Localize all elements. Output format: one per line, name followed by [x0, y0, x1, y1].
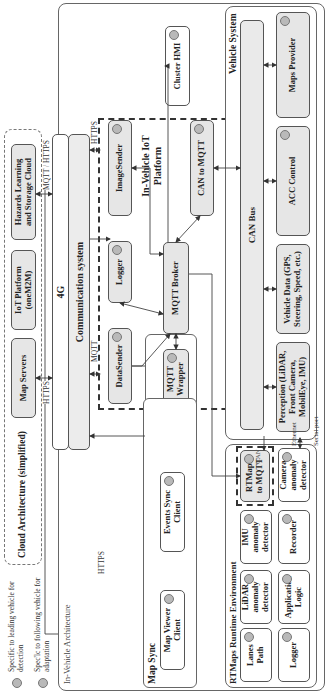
rtmaps-runtime-title: RTMaps Runtime Environment	[228, 561, 238, 684]
acc-control-label: ACC Control	[288, 157, 298, 206]
imagesender-box: ImageSender	[108, 120, 132, 216]
recorder-box: Recorder	[278, 510, 310, 564]
communication-system-box: Communication system	[68, 134, 90, 450]
rtmaps-logger-box: Logger	[278, 628, 310, 682]
following-vehicle-dot-icon	[280, 16, 290, 26]
can-label: CAN	[254, 449, 262, 464]
leading-vehicle-dot-icon	[112, 124, 122, 134]
leading-vehicle-dot-icon	[282, 452, 292, 462]
following-vehicle-dot-icon	[38, 678, 48, 688]
communication-system-label: Communication system	[74, 242, 85, 342]
ethernet-label: Ethernet	[290, 422, 298, 446]
imu-anomaly-detector-box: IMU anomaly detector	[240, 510, 272, 564]
map-viewer-client-label: Map Viewer Client	[163, 597, 183, 663]
vehicle-data-box: Vehicle Data (GPS, Steering, Speed, etc.…	[276, 244, 310, 334]
iot-platform-label: IoT Platform (oneM2M)	[14, 257, 34, 323]
imagesender-label: ImageSender	[115, 144, 125, 192]
lidar-anomaly-detector-box: LiDAR anomaly detector	[240, 570, 272, 624]
lanes-path-box: Lanes Path	[240, 628, 272, 682]
in-vehicle-architecture-title: In-Vehicle Architecture	[62, 604, 72, 684]
following-vehicle-dot-icon	[244, 632, 254, 642]
hazards-cloud-label: Hazards Learning and Storage Cloud	[14, 151, 34, 233]
mqtt-broker-label: MQTT Broker	[171, 261, 181, 315]
leading-vehicle-dot-icon	[282, 574, 292, 584]
acc-control-box: ACC Control	[276, 126, 310, 236]
leading-vehicle-dot-icon	[194, 124, 204, 134]
serial-port-label: Serial port	[312, 417, 320, 446]
following-vehicle-dot-icon	[164, 594, 174, 604]
logger-label: Logger	[115, 259, 125, 285]
vehicle-system-title: Vehicle System	[228, 13, 238, 74]
maps-provider-label: Maps Provider	[288, 38, 298, 92]
leading-vehicle-dot-icon	[282, 514, 292, 524]
legend-label: Specific to leading vehicle for detectio…	[8, 572, 25, 672]
leading-vehicle-dot-icon	[282, 632, 292, 642]
hazards-cloud-box: Hazards Learning and Storage Cloud	[11, 144, 36, 240]
can-bus-box: CAN Bus	[240, 20, 264, 430]
following-vehicle-dot-icon	[169, 30, 179, 40]
following-vehicle-dot-icon	[164, 476, 174, 486]
mqtt-https-label: MQTT / HTTPS	[42, 140, 51, 190]
datasender-label: DataSender	[115, 345, 125, 388]
map-viewer-client-box: Map Viewer Client	[160, 590, 185, 670]
perception-label: Perception (LiDAR, Front Camera, MobilEy…	[278, 349, 307, 425]
leading-vehicle-dot-icon	[112, 332, 122, 342]
leading-vehicle-dot-icon	[244, 574, 254, 584]
following-vehicle-dot-icon	[280, 130, 290, 140]
map-servers-label: Map Servers	[19, 355, 29, 402]
can-to-mqtt-label: CAN to MQTT	[197, 140, 207, 196]
rtmaps-logger-label: Logger	[289, 642, 299, 668]
camera-anomaly-detector-box: Camera anomaly detector	[278, 448, 310, 502]
leading-vehicle-dot-icon	[112, 245, 122, 255]
cloud-architecture-title: Cloud Architecture (simplified)	[17, 431, 27, 558]
4g-box: 4G	[52, 134, 69, 450]
leading-vehicle-dot-icon	[244, 454, 254, 464]
architecture-diagram: Specific to leading vehicle for detectio…	[0, 0, 328, 694]
mqtt-broker-box: MQTT Broker	[163, 242, 189, 334]
can-to-mqtt-box: CAN to MQTT	[190, 120, 214, 216]
vehicle-data-label: Vehicle Data (GPS, Steering, Speed, etc.…	[283, 251, 303, 327]
mqtt-wrapper-label: MQTT Wrapper	[166, 356, 186, 402]
events-sync-client-box: Events Sync Client	[160, 472, 185, 552]
mqtt-iot-label: MQTT	[90, 341, 99, 362]
map-servers-box: Map Servers	[11, 338, 36, 418]
4g-label: 4G	[55, 286, 66, 299]
legend-label: Spec'lc to following vehicle for adaptat…	[34, 572, 51, 672]
iot-platform-box: IoT Platform (oneM2M)	[11, 250, 36, 330]
https-iot-label: HTTPS	[90, 121, 99, 144]
cluster-hmi-box: Cluster HMI	[165, 26, 190, 106]
logger-box: Logger	[108, 241, 132, 303]
in-vehicle-iot-platform-title: In-Vehicle IoT Platform	[140, 126, 164, 206]
map-sync-title: Map Sync	[147, 643, 157, 684]
https-sync-label: HTTPS	[97, 551, 106, 574]
leading-vehicle-dot-icon	[12, 678, 22, 688]
application-logic-box: Application Logic	[278, 570, 310, 624]
can-bus-label: CAN Bus	[247, 207, 257, 243]
maps-provider-box: Maps Provider	[276, 12, 310, 118]
events-sync-client-label: Events Sync Client	[163, 479, 183, 545]
recorder-label: Recorder	[289, 520, 299, 554]
perception-box: Perception (LiDAR, Front Camera, MobilEy…	[276, 342, 310, 432]
leading-vehicle-dot-icon	[244, 514, 254, 524]
cluster-hmi-label: Cluster HMI	[173, 43, 183, 90]
leading-vehicle-dot-icon	[167, 353, 177, 363]
https-map-label: HTTPS	[42, 381, 51, 404]
datasender-box: DataSender	[108, 328, 132, 404]
